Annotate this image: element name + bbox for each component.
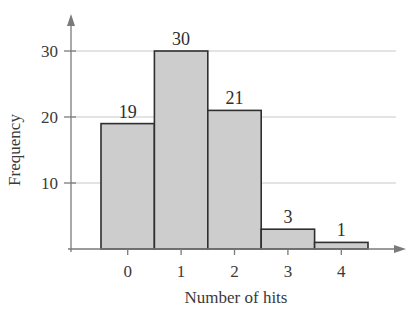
x-tick-label: 2	[230, 262, 239, 281]
x-tick-label: 3	[284, 262, 293, 281]
y-tick-label: 20	[41, 108, 58, 127]
y-axis-title: Frequency	[5, 114, 24, 186]
bar-4	[315, 242, 368, 249]
bar-value-label: 1	[337, 220, 346, 240]
x-tick-label: 4	[337, 262, 346, 281]
bar-2	[208, 110, 261, 249]
x-axis-title: Number of hits	[185, 288, 288, 307]
y-axis-arrow-icon	[67, 14, 75, 26]
histogram-chart: 102030 01234 19302131 Number of hits Fre…	[0, 0, 410, 314]
x-tick-label: 0	[123, 262, 132, 281]
x-ticks: 01234	[123, 249, 346, 281]
bar-value-label: 21	[226, 88, 244, 108]
bar-3	[261, 229, 314, 249]
bar-value-label: 19	[119, 102, 137, 122]
bar-value-label: 30	[172, 29, 190, 49]
bars	[101, 51, 368, 249]
x-axis-arrow-icon	[394, 245, 406, 253]
y-tick-label: 30	[41, 42, 58, 61]
bar-1	[154, 51, 207, 249]
bar-value-label: 3	[283, 207, 292, 227]
y-tick-label: 10	[41, 174, 58, 193]
x-tick-label: 1	[177, 262, 186, 281]
bar-0	[101, 124, 154, 249]
